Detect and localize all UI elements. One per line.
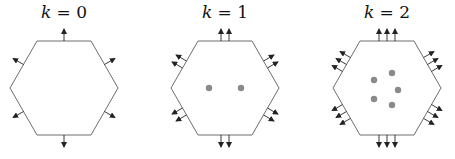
interior-dot: [395, 87, 401, 93]
interior-dot: [206, 85, 212, 91]
interior-dot: [238, 85, 244, 91]
outward-arrow-icon: [428, 112, 438, 118]
outward-arrow-icon: [424, 118, 434, 124]
outward-arrow-icon: [340, 118, 350, 124]
outward-arrow-icon: [264, 55, 274, 61]
outward-arrow-icon: [172, 108, 182, 114]
interior-dot: [371, 96, 377, 102]
outward-arrow-icon: [336, 112, 346, 118]
outward-arrow-icon: [176, 55, 186, 61]
outward-arrow-icon: [431, 65, 441, 71]
hexagon-panel-k1: [171, 29, 279, 147]
hexagon-outline: [10, 41, 118, 135]
outward-arrow-icon: [13, 112, 23, 118]
outward-arrow-icon: [428, 58, 438, 64]
outward-arrow-icon: [424, 52, 434, 58]
hexagon-panel-k0: [10, 29, 118, 147]
outward-arrow-icon: [105, 58, 115, 64]
outward-arrow-icon: [336, 58, 346, 64]
outward-arrow-icon: [267, 62, 277, 68]
interior-dot: [371, 77, 377, 83]
outward-arrow-icon: [105, 112, 115, 118]
hexagon-outline: [333, 41, 441, 135]
outward-arrow-icon: [340, 52, 350, 58]
outward-arrow-icon: [172, 62, 182, 68]
outward-arrow-icon: [332, 65, 342, 71]
interior-dot: [389, 102, 395, 108]
interior-dot: [389, 70, 395, 76]
outward-arrow-icon: [431, 105, 441, 111]
hexagon-panel-k2: [332, 29, 442, 147]
hexagon-outline: [171, 41, 279, 135]
outward-arrow-icon: [264, 115, 274, 121]
outward-arrow-icon: [176, 115, 186, 121]
outward-arrow-icon: [13, 58, 23, 64]
hexagon-diagram-canvas: [0, 0, 455, 159]
outward-arrow-icon: [332, 105, 342, 111]
outward-arrow-icon: [267, 108, 277, 114]
